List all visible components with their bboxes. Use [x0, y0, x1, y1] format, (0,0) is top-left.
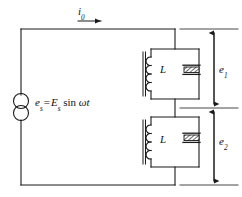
source-equation-label: es=Es sin ωt [35, 97, 90, 111]
voltage-top-subscript: 1 [224, 72, 228, 80]
current-subscript: 0 [81, 14, 85, 22]
source-circle-upper [14, 94, 29, 109]
inductor-bottom-coil [146, 125, 151, 159]
lc-tank-lower [143, 117, 200, 185]
dimension-extension-lines [180, 29, 238, 185]
lc-tank-upper [143, 29, 200, 99]
voltage-bottom-subscript: 2 [224, 144, 228, 152]
omega-t-argument: ωt [79, 96, 90, 108]
inductor-top-label: L [160, 64, 166, 75]
source-lhs-subscript: s [40, 105, 43, 113]
equals-sign: = [43, 96, 51, 108]
inductor-top-core [143, 52, 146, 96]
current-label: i0 [78, 6, 85, 20]
source-amplitude-subscript: s [58, 105, 61, 113]
inductor-bottom-label: L [160, 134, 166, 145]
voltage-top-label: e1 [219, 64, 228, 78]
sin-function: sin [63, 96, 76, 108]
inductor-top-coil [146, 57, 151, 91]
voltage-bottom-label: e2 [219, 136, 228, 150]
capacitor-top [183, 65, 200, 74]
circuit-diagram: i0 es=Es sin ωt L L e1 e2 [0, 0, 242, 197]
source-circle-lower [14, 106, 29, 121]
ac-source-symbol [14, 94, 29, 121]
inductor-bottom-core [143, 120, 146, 164]
source-amplitude-symbol: E [51, 96, 58, 108]
capacitor-bottom [183, 133, 200, 142]
